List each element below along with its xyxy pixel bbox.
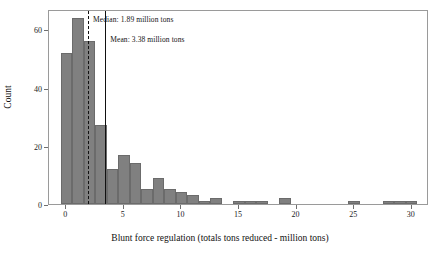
y-tick-label: 20 bbox=[34, 142, 42, 151]
median-reference-line bbox=[88, 11, 89, 204]
median-annotation-label: Median: 1.89 million tons bbox=[93, 15, 173, 24]
x-tick-label: 10 bbox=[176, 210, 184, 219]
x-tick-mark bbox=[296, 205, 297, 209]
x-tick-mark bbox=[411, 205, 412, 209]
histogram-figure: Median: 1.89 million tons Mean: 3.38 mil… bbox=[0, 0, 440, 270]
plot-panel bbox=[48, 10, 428, 205]
y-tick-mark bbox=[44, 147, 48, 148]
y-tick-label: 0 bbox=[38, 201, 42, 210]
x-tick-mark bbox=[65, 205, 66, 209]
y-axis: 0204060 bbox=[20, 10, 48, 205]
y-tick-label: 40 bbox=[34, 84, 42, 93]
y-tick-mark bbox=[44, 89, 48, 90]
x-tick-mark bbox=[123, 205, 124, 209]
x-tick-label: 25 bbox=[349, 210, 357, 219]
x-tick-label: 15 bbox=[234, 210, 242, 219]
y-tick-mark bbox=[44, 30, 48, 31]
y-tick-mark bbox=[44, 205, 48, 206]
mean-annotation-label: Mean: 3.38 million tons bbox=[110, 35, 184, 44]
x-tick-label: 0 bbox=[63, 210, 67, 219]
x-tick-mark bbox=[353, 205, 354, 209]
mean-reference-line bbox=[105, 11, 106, 204]
y-axis-title: Count bbox=[3, 67, 13, 127]
x-axis: 051015202530 bbox=[48, 205, 428, 225]
x-tick-mark bbox=[180, 205, 181, 209]
x-tick-label: 5 bbox=[121, 210, 125, 219]
x-axis-title: Blunt force regulation (totals tons redu… bbox=[0, 233, 440, 243]
x-tick-label: 30 bbox=[407, 210, 415, 219]
x-tick-mark bbox=[238, 205, 239, 209]
reference-lines-layer bbox=[49, 11, 427, 204]
x-tick-label: 20 bbox=[292, 210, 300, 219]
y-tick-label: 60 bbox=[34, 26, 42, 35]
